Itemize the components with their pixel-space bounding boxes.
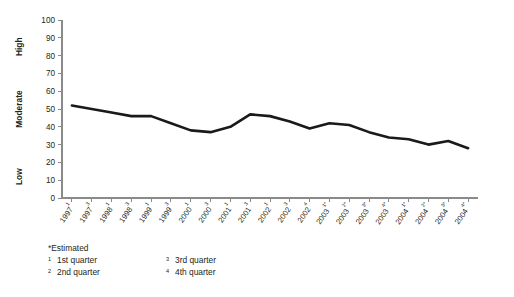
footnotes: *Estimated 11st quarter33rd quarter22nd … [48,243,378,278]
y-tick-label: 70 [46,69,56,78]
footnote-item: 33rd quarter [166,255,378,266]
footnote-item: 11st quarter [48,255,166,266]
footnote-item: 22nd quarter [48,267,166,278]
x-tick-label: 20031* [311,201,334,226]
y-tick-label: 80 [46,52,56,61]
x-tick-label: 19991 [134,201,156,225]
x-tick-label: 20034* [370,201,393,226]
x-tick-label: 20011 [213,201,235,225]
y-tick-label: 90 [46,34,56,43]
footnote-text: 4th quarter [175,267,216,278]
footnote-grid: 11st quarter33rd quarter22nd quarter44th… [48,255,378,278]
x-tick-label: 20043* [430,201,453,226]
y-tick-label: 10 [46,176,56,185]
series-group [72,105,468,148]
y-tick-label: 20 [46,158,56,167]
y-category-label: High [14,37,24,56]
x-tick-label: 20023 [272,201,294,225]
x-tick-label: 20042* [410,201,433,226]
y-tick-label: 30 [46,141,56,150]
x-tick-label: 20032* [331,201,354,226]
x-tick-label: 19981 [94,201,116,225]
x-tick-label: 20041* [390,201,413,226]
data-series-line [72,105,468,148]
y-tick-label: 40 [46,123,56,132]
x-tick-label: 20003 [193,201,215,225]
y-tick-label: 60 [46,87,56,96]
y-tick-label: 0 [50,194,55,203]
x-tick-label: 19973 [74,201,96,225]
x-tick-label: 20044* [450,201,473,226]
x-axis-group: 1997119973199811998319991199932000120003… [55,198,478,226]
y-axis-group: 0102030405060708090100HighModerateLow [14,16,62,203]
x-tick-label: 20021 [253,201,275,225]
footnote-estimated: *Estimated [48,243,378,254]
footnote-marker: 4 [166,267,175,275]
y-tick-label: 50 [46,105,56,114]
y-category-label: Moderate [14,90,24,128]
x-tick-label: 19971 [55,201,77,225]
x-tick-label: 19993 [154,201,176,225]
x-tick-label: 19983 [114,201,136,225]
y-tick-label: 100 [41,16,55,25]
footnote-text: 3rd quarter [175,255,216,266]
chart-container: 0102030405060708090100HighModerateLow 19… [0,0,514,297]
footnote-marker: 3 [166,255,175,263]
footnote-item: 44th quarter [166,267,378,278]
footnote-text: 1st quarter [57,255,97,266]
footnote-marker: 1 [48,255,57,263]
footnote-marker: 2 [48,267,57,275]
x-tick-label: 20013 [233,201,255,225]
x-tick-label: 20033* [351,201,374,226]
y-category-label: Low [14,168,24,185]
x-tick-label: 20001 [173,201,195,225]
x-tick-label: 20024 [292,201,314,225]
footnote-text: 2nd quarter [57,267,100,278]
